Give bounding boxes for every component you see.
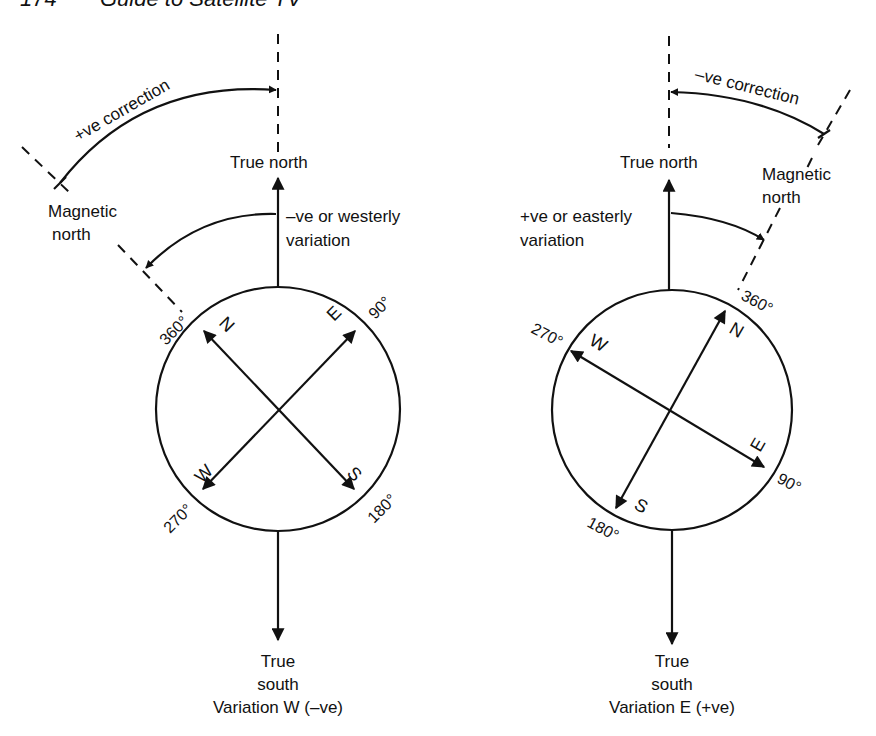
true-south-label-2: south xyxy=(257,675,299,694)
degree-label-270: 270° xyxy=(529,320,566,351)
negative-correction-arc xyxy=(671,92,824,134)
true-south-label: True xyxy=(261,652,295,671)
compass-point-s: S xyxy=(631,494,651,517)
magnetic-north-label: Magnetic xyxy=(48,202,117,221)
right-diagram-easterly-variation: –ve correction True north Magnetic north… xyxy=(520,36,850,717)
magnetic-north-line-lower xyxy=(118,245,182,312)
compass-point-w: W xyxy=(191,461,217,487)
page-number: 174 xyxy=(20,0,57,11)
correction-label: +ve correction xyxy=(71,75,173,145)
magnetic-north-label-2: north xyxy=(762,188,801,207)
true-south-label-2: south xyxy=(651,675,693,694)
easterly-variation-arc xyxy=(671,213,764,240)
compass-circle xyxy=(552,290,792,530)
running-header: 174 Guide to Satellite TV xyxy=(20,0,304,11)
magnetic-north-label: Magnetic xyxy=(762,165,831,184)
degree-label-180: 180° xyxy=(364,491,399,526)
magnetic-variation-figure: 174 Guide to Satellite TV +ve correction… xyxy=(0,0,876,736)
degree-label-180: 180° xyxy=(585,514,622,545)
compass-point-n: N xyxy=(726,318,747,342)
north-south-needle xyxy=(616,311,725,508)
degree-label-270: 270° xyxy=(160,501,195,536)
diagram-caption: Variation E (+ve) xyxy=(609,698,735,717)
east-west-needle xyxy=(571,351,764,467)
running-title: Guide to Satellite TV xyxy=(100,0,304,11)
variation-label-2: variation xyxy=(520,231,584,250)
compass-point-e: E xyxy=(746,435,769,455)
magnetic-north-label-2: north xyxy=(52,225,91,244)
westerly-variation-arc xyxy=(146,214,276,268)
compass-point-n: N xyxy=(215,313,238,336)
true-north-label: True north xyxy=(620,153,698,172)
magnetic-north-reference-line xyxy=(22,147,70,193)
variation-label-2: variation xyxy=(286,231,350,250)
degree-label-90: 90° xyxy=(775,470,804,496)
diagram-caption: Variation W (–ve) xyxy=(213,698,343,717)
true-north-label: True north xyxy=(230,153,308,172)
degree-label-360: 360° xyxy=(739,287,776,318)
compass-point-w: W xyxy=(586,330,611,356)
left-diagram-westerly-variation: +ve correction True north Magnetic north… xyxy=(22,34,401,717)
degree-label-360: 360° xyxy=(156,313,191,348)
magnetic-north-line-lower xyxy=(738,208,780,290)
degree-label-90: 90° xyxy=(365,293,394,322)
variation-label: –ve or westerly xyxy=(286,207,401,226)
magnetic-north-reference-line xyxy=(818,90,850,145)
true-south-label: True xyxy=(655,652,689,671)
variation-label: +ve or easterly xyxy=(520,207,632,226)
